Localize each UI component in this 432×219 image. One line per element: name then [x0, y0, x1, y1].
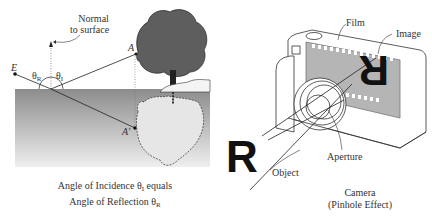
- theta-r-sub: R: [37, 75, 42, 83]
- tree-canopy: [137, 10, 207, 77]
- riverbank: [160, 80, 210, 93]
- viewfinder: [292, 46, 300, 54]
- image-label: Image: [396, 28, 421, 39]
- normal-label-line1: Normal: [70, 13, 109, 24]
- image-point-label: A': [122, 126, 130, 137]
- object-label: Object: [272, 167, 299, 178]
- right-caption-line2: (Pinhole Effect): [320, 199, 400, 211]
- theta-r-label: θR: [32, 70, 41, 85]
- incident-ray: [51, 54, 136, 89]
- theta-i-label: θI: [56, 70, 63, 85]
- aperture-label: Aperture: [327, 151, 363, 162]
- callout-arrow-icon: [53, 40, 56, 44]
- right-caption: Camera (Pinhole Effect): [320, 187, 400, 210]
- left-caption: Angle of Incidence θI equals Angle of Re…: [30, 180, 200, 211]
- normal-label-line2: to surface: [70, 24, 109, 35]
- shutter-dial: [306, 33, 322, 40]
- caption-text: Angle of Reflection θ: [69, 196, 156, 207]
- caption-text: Angle of Incidence θ: [58, 180, 142, 191]
- reflection-diagram: [13, 10, 210, 167]
- left-caption-line1: Angle of Incidence θI equals: [30, 180, 200, 196]
- left-caption-line2: Angle of Reflection θR: [30, 196, 200, 212]
- image-point: [133, 126, 137, 130]
- right-caption-line1: Camera: [320, 187, 400, 199]
- camera-diagram: [250, 30, 426, 190]
- film-label: Film: [346, 17, 365, 28]
- caption-text: equals: [144, 180, 172, 191]
- object-letter: R: [226, 132, 258, 181]
- normal-arrowhead-icon: [49, 41, 53, 47]
- object-point-label: A: [128, 42, 134, 53]
- caption-sub: R: [156, 201, 161, 209]
- theta-i-sub: I: [61, 75, 63, 83]
- normal-label: Normal to surface: [70, 13, 109, 35]
- eye-label: E: [11, 62, 17, 73]
- normal-callout: [56, 35, 80, 42]
- projected-image-letter: R: [359, 47, 389, 94]
